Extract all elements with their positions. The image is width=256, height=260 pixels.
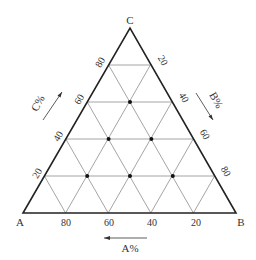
tick-label: 20 [156, 53, 171, 67]
grid-lines [44, 65, 214, 213]
axis-title-a: A% [121, 242, 138, 254]
axis-title-b: B% [207, 90, 226, 110]
arrowhead-icon [58, 92, 63, 98]
tick-label: 40 [147, 217, 157, 228]
axis-title-c: C% [28, 93, 47, 113]
vertex-label-b: B [237, 216, 244, 228]
tick-label: 80 [219, 164, 234, 178]
vertex-label-a: A [16, 216, 24, 228]
data-point [149, 137, 153, 141]
tick-label: 80 [93, 55, 108, 69]
tick-label: 80 [61, 217, 71, 228]
right-axis-title-group: B% [196, 90, 226, 120]
triangle-outline [23, 28, 236, 213]
tick-label: 60 [104, 217, 114, 228]
vertex-label-c: C [126, 14, 133, 26]
left-axis-title-group: C% [28, 92, 62, 120]
ternary-diagram: C A B 80 60 40 20 20 40 60 80 20 40 60 8… [0, 0, 256, 260]
bottom-axis-title-group: A% [104, 236, 147, 254]
left-axis-ticks: 20 40 60 80 [30, 55, 108, 180]
arrowhead-icon [104, 236, 110, 240]
tick-label: 20 [191, 217, 201, 228]
right-axis-ticks: 20 40 60 80 [156, 53, 234, 178]
data-point [107, 137, 111, 141]
tick-label: 60 [198, 127, 213, 141]
tick-label: 20 [30, 166, 45, 180]
data-point [128, 100, 132, 104]
bottom-axis-ticks: 80 60 40 20 [61, 217, 201, 228]
tick-label: 40 [51, 129, 66, 143]
data-point [171, 174, 175, 178]
arrowhead-icon [209, 115, 214, 121]
tick-label: 40 [177, 90, 192, 104]
data-point [85, 174, 89, 178]
tick-label: 60 [72, 92, 87, 106]
data-point [128, 174, 132, 178]
